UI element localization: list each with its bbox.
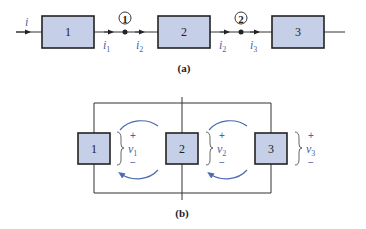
block-b1-label: 1 — [91, 142, 97, 156]
brace-v1-icon — [117, 132, 124, 165]
v1-plus: + — [130, 130, 136, 141]
v2-plus: + — [219, 130, 225, 141]
loop-2-arrow-icon — [210, 170, 247, 179]
block-1-label: 1 — [65, 25, 71, 39]
v3-minus: − — [308, 157, 314, 168]
v1-minus: − — [130, 157, 136, 168]
current-i2b-label: i2 — [219, 38, 226, 54]
block-2-label: 2 — [181, 25, 187, 39]
loop-2-upper-arc — [209, 121, 247, 130]
node-1-dot — [123, 30, 128, 35]
node-2-dot — [239, 30, 244, 35]
voltage-v2-label: v2 — [217, 142, 226, 158]
voltage-v3-label: v3 — [306, 142, 315, 158]
series-diagram-a: i 1 2 3 1 i1 i2 2 i2 i3 (a) — [16, 12, 345, 75]
brace-v3-icon — [295, 132, 302, 165]
loop-1-arrow-icon — [121, 170, 158, 179]
node-1-label: 1 — [122, 13, 128, 25]
caption-b: (b) — [175, 207, 189, 220]
block-b3-label: 3 — [268, 142, 274, 156]
block-b2-label: 2 — [179, 142, 185, 156]
circuit-diagram: i 1 2 3 1 i1 i2 2 i2 i3 (a) 1 — [0, 0, 366, 229]
v2-minus: − — [219, 157, 225, 168]
parallel-diagram-b: 1 2 3 + v1 − + v2 − + v3 − (b) — [78, 97, 315, 220]
current-i1-label: i1 — [103, 38, 110, 54]
brace-v2-icon — [206, 132, 213, 165]
node-2-label: 2 — [238, 13, 244, 25]
v3-plus: + — [308, 130, 314, 141]
voltage-v1-label: v1 — [128, 142, 137, 158]
caption-a: (a) — [178, 62, 191, 75]
block-3-label: 3 — [295, 25, 301, 39]
loop-1-upper-arc — [120, 121, 158, 130]
current-i2-label: i2 — [136, 38, 143, 54]
input-current-label: i — [25, 15, 28, 29]
current-i3-label: i3 — [250, 38, 257, 54]
